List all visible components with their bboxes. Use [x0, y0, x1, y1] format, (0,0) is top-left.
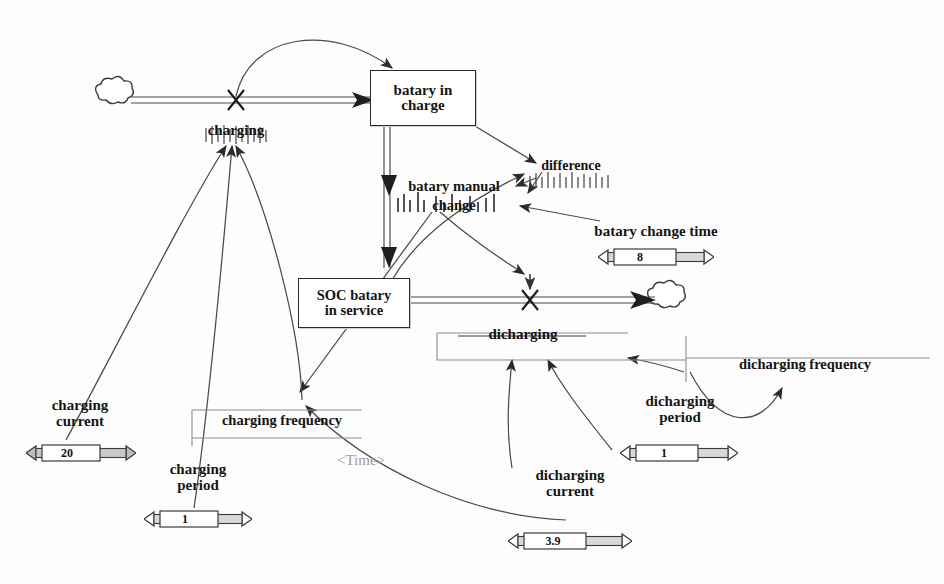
link-charging-frequency-to-charging-valve: [236, 146, 302, 400]
valve-charging-label: charging: [196, 122, 276, 139]
slider-dicharging-current-value: 3.9: [508, 530, 632, 552]
slider-dicharging-current-line1: dicharging: [535, 467, 604, 483]
slider-batary-change-time-line1: batary change time: [594, 223, 717, 239]
aux-dicharging-frequency[interactable]: dicharging frequency: [710, 356, 900, 376]
aux-batary-manual-change[interactable]: batary manual change: [392, 178, 516, 218]
link-charging-current-to-charging-valve: [66, 146, 226, 440]
link-batary-in-charge-to-difference: [470, 123, 536, 163]
aux-difference-label: difference: [528, 158, 614, 174]
time-variable-label[interactable]: <Time>: [337, 452, 385, 469]
charging-valve-shape: [228, 90, 244, 110]
slider-charging-current-value: 20: [26, 442, 136, 464]
slider-dicharging-period-line2: period: [659, 409, 701, 425]
slider-charging-period[interactable]: 1: [144, 508, 252, 530]
valve-charging[interactable]: charging: [196, 120, 276, 144]
aux-charging-frequency[interactable]: charging frequency: [202, 412, 362, 432]
link-manual-change-to-dicharging-valve: [440, 212, 524, 274]
slider-charging-period-line2: period: [177, 477, 219, 493]
stock-batary-in-charge-line1: batary in: [394, 82, 453, 98]
stock-soc-line1: SOC batary: [317, 287, 392, 303]
link-charging-to-batary-in-charge: [236, 40, 392, 96]
slider-dicharging-period-line1: dicharging: [645, 393, 714, 409]
link-batary-change-time-to-manual-change: [520, 206, 600, 221]
aux-batary-manual-change-line1: batary manual: [392, 178, 516, 195]
slider-batary-change-time[interactable]: 8: [598, 246, 714, 268]
slider-dicharging-current-line2: current: [546, 483, 594, 499]
slider-charging-period-label: charging period: [140, 462, 256, 494]
slider-charging-current-line1: charging: [52, 397, 109, 413]
link-dicharging-current-to-dicharging-2: [548, 360, 612, 450]
slider-charging-period-line1: charging: [170, 461, 227, 477]
stock-batary-in-charge[interactable]: batary in charge: [370, 70, 476, 126]
slider-dicharging-period[interactable]: 1: [620, 442, 738, 464]
aux-dicharging-frequency-label: dicharging frequency: [710, 356, 900, 373]
aux-charging-frequency-label: charging frequency: [202, 412, 362, 429]
slider-dicharging-period-value: 1: [620, 442, 738, 464]
diagram-canvas: batary in charge SOC batary in service c…: [0, 0, 944, 584]
charging-flow-pipe: [131, 92, 374, 108]
slider-charging-current[interactable]: 20: [26, 442, 136, 464]
slider-charging-current-line2: current: [56, 413, 104, 429]
aux-difference[interactable]: difference: [528, 158, 614, 178]
slider-dicharging-period-label: dicharging period: [616, 394, 744, 426]
slider-dicharging-current-label: dicharging current: [500, 468, 640, 500]
source-cloud-shape: [96, 76, 134, 103]
link-charging-period-to-charging-valve: [194, 146, 232, 508]
stock-soc-batary-in-service[interactable]: SOC batary in service: [298, 278, 410, 328]
valve-dicharging[interactable]: dicharging: [463, 326, 583, 348]
link-dicharging-current-to-dicharging: [508, 360, 512, 468]
slider-charging-period-value: 1: [144, 508, 252, 530]
stock-batary-in-charge-line2: charge: [401, 97, 444, 113]
slider-dicharging-current[interactable]: 3.9: [508, 530, 632, 552]
stock-soc-line2: in service: [325, 302, 383, 318]
slider-batary-change-time-label: batary change time: [578, 224, 734, 240]
valve-dicharging-label: dicharging: [463, 326, 583, 343]
slider-batary-change-time-value: 8: [598, 246, 714, 268]
dicharging-valve-shape: [522, 290, 538, 310]
slider-charging-current-label: charging current: [22, 398, 138, 430]
dicharging-flow-pipe: [408, 291, 656, 309]
aux-batary-manual-change-line2: change: [392, 197, 516, 214]
